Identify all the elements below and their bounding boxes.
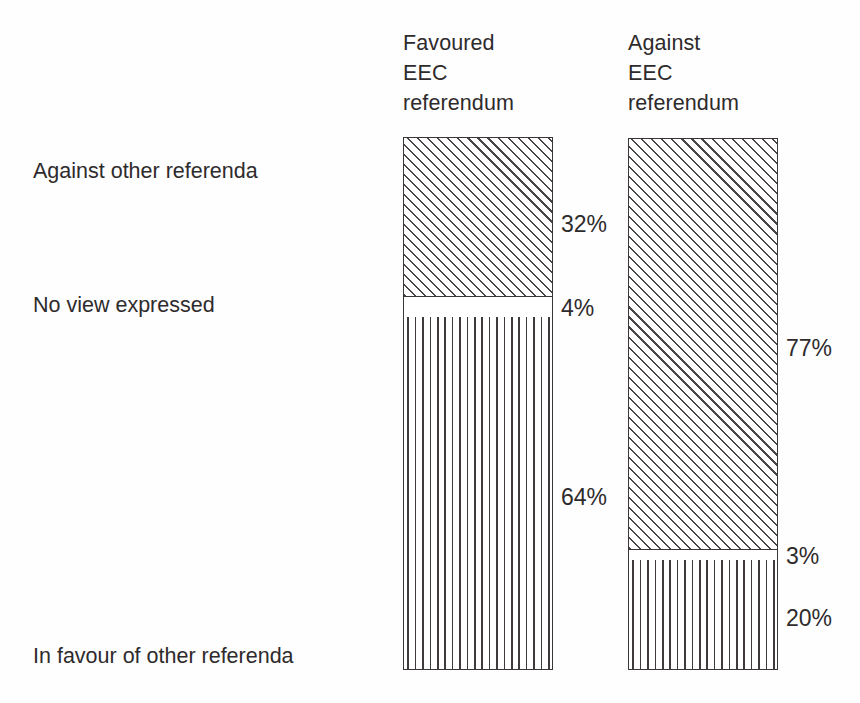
stacked-bar-chart: Favoured EEC referendum Against EEC refe…	[0, 0, 860, 703]
segment-in-favour-of-other-referenda-col1	[629, 564, 777, 670]
value-label-col0-against-other-referenda: 32%	[561, 213, 607, 236]
segment-against-other-referenda-col0	[404, 138, 552, 296]
value-label-col0-in-favour-of-other-referenda: 64%	[561, 486, 607, 509]
value-label-col1-against-other-referenda: 77%	[786, 337, 832, 360]
column-header-favoured-eec-referendum: Favoured EEC referendum	[403, 28, 514, 118]
column-header-against-eec-referendum: Against EEC referendum	[628, 28, 739, 118]
value-label-col1-in-favour-of-other-referenda: 20%	[786, 607, 832, 630]
row-label-in-favour-of-other-referenda: In favour of other referenda	[33, 643, 294, 669]
bar-favoured-eec-referendum	[403, 137, 553, 670]
row-label-no-view-expressed: No view expressed	[33, 292, 215, 318]
bar-against-eec-referendum	[628, 138, 778, 670]
segment-against-other-referenda-col1	[629, 139, 777, 549]
segment-in-favour-of-other-referenda-col0	[404, 321, 552, 670]
row-label-against-other-referenda: Against other referenda	[33, 158, 258, 184]
value-label-col1-no-view-expressed: 3%	[786, 545, 819, 568]
value-label-col0-no-view-expressed: 4%	[561, 297, 594, 320]
